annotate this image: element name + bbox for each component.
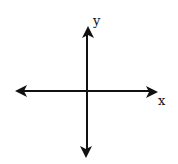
axes-graphic [0, 0, 178, 164]
coordinate-axes-diagram: y x [0, 0, 178, 164]
x-axis-label: x [158, 94, 165, 107]
y-axis-label: y [93, 14, 100, 27]
